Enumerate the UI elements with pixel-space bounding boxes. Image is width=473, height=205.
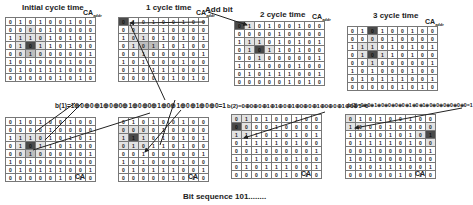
arrows-overlay bbox=[0, 0, 465, 205]
